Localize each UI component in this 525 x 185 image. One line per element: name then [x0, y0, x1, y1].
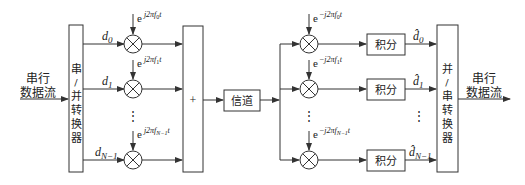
- rx-ellipsis: ⋮: [303, 109, 315, 123]
- svg-text:d̂1: d̂1: [413, 74, 424, 90]
- ps-char: 并: [442, 62, 453, 76]
- integrator-label-1: 积分: [375, 84, 397, 97]
- ps-char: 器: [442, 132, 453, 145]
- ps-char: 转: [442, 103, 453, 117]
- sp-char: 换: [71, 117, 82, 131]
- integrator-label-0: 积分: [375, 39, 397, 52]
- rx-mixer-0: [300, 35, 318, 53]
- rx-out-label-0: d̂0: [413, 29, 424, 45]
- rx-out-ellipsis: ⋮: [413, 109, 425, 123]
- sp-char: 器: [71, 132, 82, 145]
- rx-osc-label-n1: e−j2πfN−1t: [313, 126, 351, 140]
- tx-osc-label-1: ej2πf1t: [137, 55, 162, 69]
- svg-text:ej2πf0t: ej2πf0t: [137, 10, 162, 24]
- tx-mixer-n1: [124, 151, 142, 169]
- rx-out-label-n1: d̂N−1: [409, 145, 432, 161]
- ofdm-block-diagram: 串行 数据流 串 / 并 转 换 器 d0 d1 dN−1 ej2πf0t ej…: [0, 0, 525, 185]
- rx-mixer-n1: [300, 151, 318, 169]
- svg-text:e−j2πfN−1t: e−j2πfN−1t: [313, 126, 351, 140]
- rx-osc-label-0: e−j2πf0t: [313, 10, 343, 24]
- summer-plus: +: [190, 93, 197, 107]
- tx-data-label-0: d0: [102, 29, 113, 45]
- ps-char: 串: [442, 90, 453, 103]
- tx-data-label-n1: dN−1: [95, 145, 118, 161]
- rx-mixer-1: [300, 80, 318, 98]
- tx-osc-label-0: ej2πf0t: [137, 10, 162, 24]
- svg-text:dN−1: dN−1: [95, 145, 118, 161]
- sp-char: 串: [71, 63, 82, 76]
- svg-text:ej2πf1t: ej2πf1t: [137, 55, 162, 69]
- sp-char: 转: [71, 103, 82, 117]
- svg-text:ej2πfN−1t: ej2πfN−1t: [137, 126, 170, 140]
- tx-osc-label-n1: ej2πfN−1t: [137, 126, 170, 140]
- input-label-line1: 串行: [26, 72, 50, 86]
- integrator-label-n1: 积分: [375, 155, 397, 168]
- svg-text:d1: d1: [102, 74, 113, 90]
- channel-label: 信道: [231, 94, 253, 108]
- svg-text:d̂N−1: d̂N−1: [409, 145, 432, 161]
- output-label-line2: 数据流: [466, 85, 502, 100]
- svg-text:e−j2πf1t: e−j2πf1t: [313, 55, 343, 69]
- svg-text:e−j2πf0t: e−j2πf0t: [313, 10, 343, 24]
- input-label-line2: 数据流: [20, 85, 56, 100]
- tx-ellipsis: ⋮: [127, 109, 139, 123]
- ps-char: 换: [442, 117, 453, 131]
- output-label-line1: 串行: [472, 72, 496, 86]
- svg-text:d0: d0: [102, 29, 113, 45]
- tx-data-label-1: d1: [102, 74, 113, 90]
- sp-char: 并: [71, 89, 82, 103]
- rx-osc-label-1: e−j2πf1t: [313, 55, 343, 69]
- rx-out-label-1: d̂1: [413, 74, 424, 90]
- tx-mixer-0: [124, 35, 142, 53]
- svg-text:d̂0: d̂0: [413, 29, 424, 45]
- tx-mixer-1: [124, 80, 142, 98]
